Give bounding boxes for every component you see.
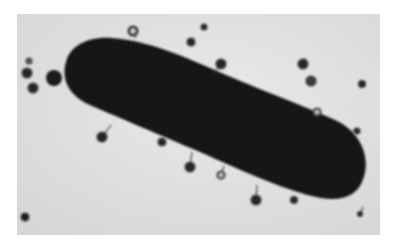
- micrograph: [0, 0, 395, 251]
- micrograph-canvas: [0, 0, 395, 251]
